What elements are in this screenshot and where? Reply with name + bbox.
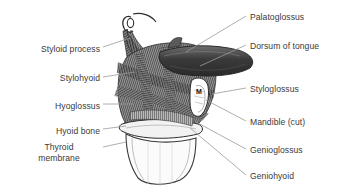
anatomy-figure: Styloid process Stylohyoid Hyoglossus Hy… [0,0,350,193]
label-palatoglossus: Palatoglossus [250,12,304,23]
illustration-body [110,13,253,186]
tongue-muscles-illustration [0,0,350,193]
label-stylohyoid: Stylohyoid [18,73,100,84]
thyroid-membrane-shape [126,134,196,186]
label-hyoid-bone: Hyoid bone [18,126,100,137]
marker-m: M [196,88,202,95]
label-geniohyoid: Geniohyoid [250,171,294,182]
label-hyoglossus: Hyoglossus [18,101,100,112]
label-genioglossus: Genioglossus [250,145,303,156]
label-mandible-cut: Mandible (cut) [250,117,305,128]
label-styloid-process: Styloid process [18,44,100,55]
dorsum-of-tongue-shape [159,37,253,76]
label-dorsum-of-tongue: Dorsum of tongue [250,41,319,52]
label-styloglossus: Styloglossus [250,84,299,95]
label-thyroid-membrane: Thyroid membrane [18,142,100,163]
